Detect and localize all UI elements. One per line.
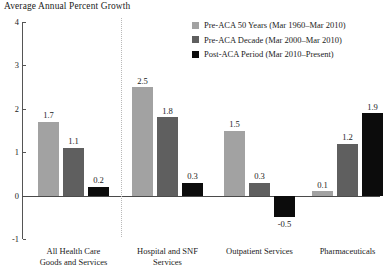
bar-value-label: 0.3 bbox=[240, 171, 280, 181]
bar-value-label: -0.5 bbox=[265, 219, 305, 229]
category-label: Pharmaceuticals bbox=[293, 246, 384, 257]
bar-value-label: 1.9 bbox=[353, 102, 384, 112]
bar[interactable] bbox=[132, 87, 153, 196]
category-label-line: Services bbox=[113, 257, 223, 268]
chart-title: Average Annual Percent Growth bbox=[4, 1, 130, 11]
bar-value-label: 0.2 bbox=[79, 175, 119, 185]
bar-value-label: 1.8 bbox=[148, 106, 188, 116]
y-axis-tick-label: 3 bbox=[15, 61, 19, 70]
bar[interactable] bbox=[249, 183, 270, 196]
y-axis-tick-label: -1 bbox=[12, 235, 19, 244]
bar[interactable] bbox=[362, 113, 383, 195]
y-axis bbox=[22, 22, 23, 239]
bar[interactable] bbox=[224, 131, 245, 196]
y-axis-tick-label: 4 bbox=[15, 18, 19, 27]
plot-area: 43210-1 1.71.10.22.51.80.31.50.3-0.50.11… bbox=[22, 22, 380, 239]
y-axis-tick-label: 0 bbox=[15, 191, 19, 200]
bar[interactable] bbox=[63, 148, 84, 196]
y-axis-tick-mark bbox=[23, 22, 26, 23]
bar-value-label: 1.5 bbox=[215, 119, 255, 129]
y-axis-tick-mark bbox=[23, 109, 26, 110]
y-axis-tick-mark bbox=[23, 65, 26, 66]
group-divider-line bbox=[121, 18, 122, 237]
bar[interactable] bbox=[337, 144, 358, 196]
category-label-line: Pharmaceuticals bbox=[293, 246, 384, 257]
bar[interactable] bbox=[88, 187, 109, 196]
bar-value-label: 1.1 bbox=[54, 136, 94, 146]
bar[interactable] bbox=[274, 196, 295, 218]
y-axis-tick-mark bbox=[23, 152, 26, 153]
y-axis-tick-label: 1 bbox=[15, 148, 19, 157]
bar-chart: Average Annual Percent Growth Pre-ACA 50… bbox=[0, 0, 384, 272]
zero-baseline bbox=[22, 196, 380, 197]
bar-value-label: 2.5 bbox=[123, 76, 163, 86]
bar[interactable] bbox=[157, 117, 178, 195]
bar-value-label: 0.3 bbox=[173, 171, 213, 181]
y-axis-tick-label: 2 bbox=[15, 104, 19, 113]
bar[interactable] bbox=[38, 122, 59, 196]
bar[interactable] bbox=[312, 191, 333, 195]
y-axis-tick-mark bbox=[23, 239, 26, 240]
bar-value-label: 1.7 bbox=[29, 110, 69, 120]
bar[interactable] bbox=[182, 183, 203, 196]
